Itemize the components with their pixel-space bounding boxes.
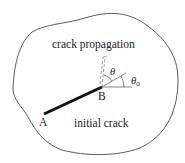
theta0-label: θ0 [131, 75, 140, 88]
initial-crack-line [44, 87, 102, 114]
crack-diagram: crack propagation initial crack A B θ θ0 [0, 0, 185, 163]
theta0-arc [121, 76, 124, 87]
theta-label: θ [110, 66, 115, 77]
point-a-label: A [39, 116, 48, 128]
initial-crack-label: initial crack [74, 117, 129, 129]
point-b-label: B [98, 90, 106, 102]
domain-boundary [13, 13, 178, 154]
crack-propagation-path [100, 56, 107, 87]
crack-propagation-label: crack propagation [52, 38, 135, 51]
